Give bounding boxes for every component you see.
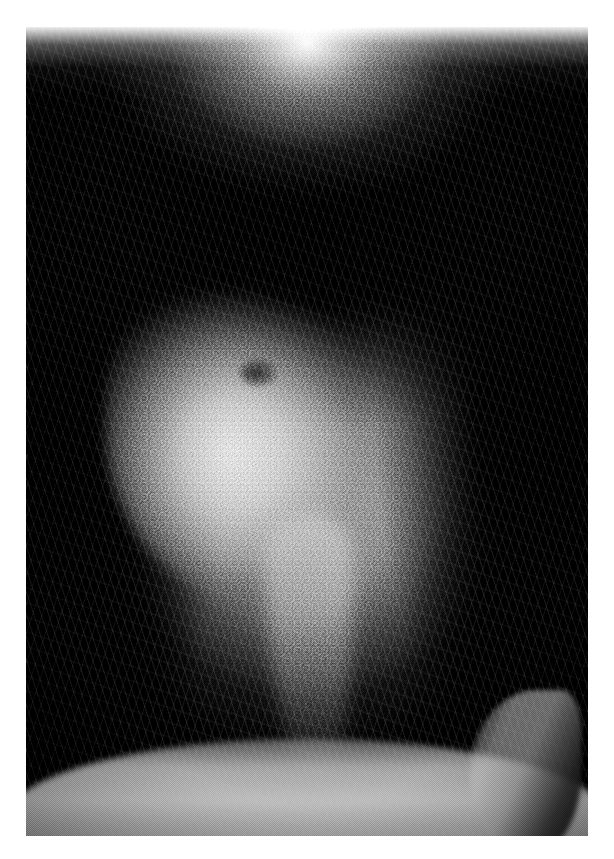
skin-follicle-texture	[26, 27, 588, 836]
film-grain-overlay	[26, 27, 588, 836]
alopecia-patch-region	[105, 237, 420, 609]
ear-silhouette	[470, 690, 582, 836]
forehead-skin-band	[26, 739, 588, 836]
dark-tuft-region	[240, 359, 277, 387]
clinical-photograph	[26, 27, 588, 836]
hair-mass-right-region	[26, 27, 588, 836]
parting-band-region	[263, 512, 357, 789]
plate-top-edge-fade	[26, 27, 588, 836]
vignette-overlay	[26, 27, 588, 836]
page-canvas: Dense dark tightly-curled hair surrounds…	[0, 0, 614, 859]
hair-strand-highlights	[26, 27, 588, 836]
hair-mass-left-region	[26, 27, 588, 836]
curly-hair-texture	[26, 27, 588, 836]
hair-base-layer	[26, 27, 588, 836]
photograph-view: close-up top-of-head view, vertex toward…	[0, 0, 1, 1]
photograph-subject: scalp with circumscribed hairless patch	[0, 0, 1, 1]
photograph-description: Dense dark tightly-curled hair surrounds…	[0, 0, 1, 1]
hair-canopy-region	[26, 27, 588, 836]
